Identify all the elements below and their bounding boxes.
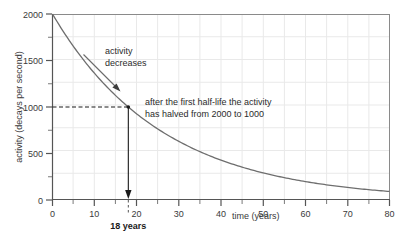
decay-chart: 2000 1500 1000 500 0 0 10 20 30 40 50 60… [0,0,406,234]
y-axis-title: activity (decays per second) [14,51,24,163]
y-tick-label-500: 500 [28,149,43,159]
chart-figure: 2000 1500 1000 500 0 0 10 20 30 40 50 60… [0,0,406,234]
activity-decreases-line-1: activity [105,46,133,56]
x-axis-title: time (years) [232,211,280,221]
half-life-note-line-1: after the first half-life the activity [145,97,272,107]
x-tick-label-70: 70 [343,209,353,219]
y-tick-label-1000: 1000 [23,103,43,113]
x-tick-label-20: 20 [131,209,141,219]
y-axis-major-ticks [46,14,52,200]
x-tick-label-0: 0 [50,209,55,219]
x-axis-major-ticks [53,200,390,206]
x-tick-label-10: 10 [89,209,99,219]
x-tick-label-30: 30 [174,209,184,219]
x-tick-label-60: 60 [300,209,310,219]
x-tick-label-40: 40 [216,209,226,219]
y-tick-label-1500: 1500 [23,56,43,66]
y-tick-label-0: 0 [38,196,43,206]
activity-decreases-line-2: decreases [105,58,147,68]
half-life-note-line-2: has halved from 2000 to 1000 [145,109,264,119]
x-tick-label-80: 80 [384,209,394,219]
half-life-value-label: 18 years [110,221,146,231]
y-tick-label-2000: 2000 [23,10,43,20]
